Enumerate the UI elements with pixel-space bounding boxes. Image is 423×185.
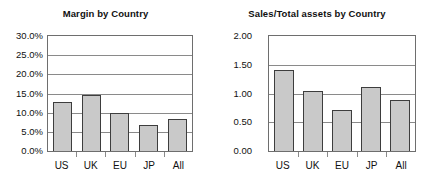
bar-eu[interactable] [332,110,352,151]
plot-area-margin [47,35,193,152]
x-tick-label-jp: JP [140,160,159,171]
x-axis-labels-sales-total-assets: USUKEUJPAll [268,160,416,171]
x-tickmark [135,152,136,157]
x-tick-label-us: US [273,160,293,171]
y-tick-label: 30.0% [16,30,43,41]
x-tick-label-uk: UK [302,160,322,171]
chart-title-margin: Margin by Country [0,8,211,19]
y-axis-labels-sales-total-assets: 0.000.501.001.502.00 [211,35,252,152]
y-axis-labels-margin: 0.0%5.0%10.0%15.0%20.0%25.0%30.0% [0,35,43,152]
y-tick-label: 15.0% [16,87,43,98]
y-tick-label: 0.00 [234,145,253,156]
bar-all[interactable] [390,100,410,151]
bar-jp[interactable] [361,87,381,151]
x-tick-label-us: US [52,160,71,171]
bar-uk[interactable] [303,91,323,151]
y-tick-label: 0.50 [234,116,253,127]
x-tick-label-jp: JP [362,160,382,171]
y-tick-label: 20.0% [16,68,43,79]
bar-all[interactable] [168,119,187,151]
x-tick-label-uk: UK [81,160,100,171]
x-tickmark [298,152,299,157]
y-tick-label: 0.0% [21,145,43,156]
bar-series-sales-total-assets [269,36,415,151]
x-axis-tickmarks-margin [47,152,193,157]
x-tick-label-eu: EU [332,160,352,171]
y-tick-label: 2.00 [234,30,253,41]
x-tickmark [164,152,165,157]
bar-us[interactable] [53,102,72,151]
chart-panel-margin: Margin by Country 0.0%5.0%10.0%15.0%20.0… [0,0,211,185]
y-tick-label: 1.50 [234,58,253,69]
x-axis-labels-margin: USUKEUJPAll [47,160,193,171]
bar-us[interactable] [274,70,294,151]
y-tick-label: 5.0% [21,125,43,136]
y-tick-label: 25.0% [16,49,43,60]
bar-uk[interactable] [82,95,101,151]
x-tick-label-all: All [169,160,188,171]
plot-area-sales-total-assets [268,35,416,152]
x-tick-label-eu: EU [110,160,129,171]
bar-eu[interactable] [110,113,129,151]
y-tick-label: 1.00 [234,87,253,98]
x-tickmark [105,152,106,157]
x-axis-tickmarks-sales-total-assets [268,152,416,157]
x-tickmark [357,152,358,157]
x-tickmark [386,152,387,157]
x-tickmark [76,152,77,157]
bar-jp[interactable] [139,125,158,151]
y-tick-label: 10.0% [16,106,43,117]
bar-series-margin [48,36,192,151]
figure-two-bar-charts: Margin by Country 0.0%5.0%10.0%15.0%20.0… [0,0,423,185]
chart-title-sales-total-assets: Sales/Total assets by Country [211,8,423,19]
x-tickmark [327,152,328,157]
x-tick-label-all: All [391,160,411,171]
